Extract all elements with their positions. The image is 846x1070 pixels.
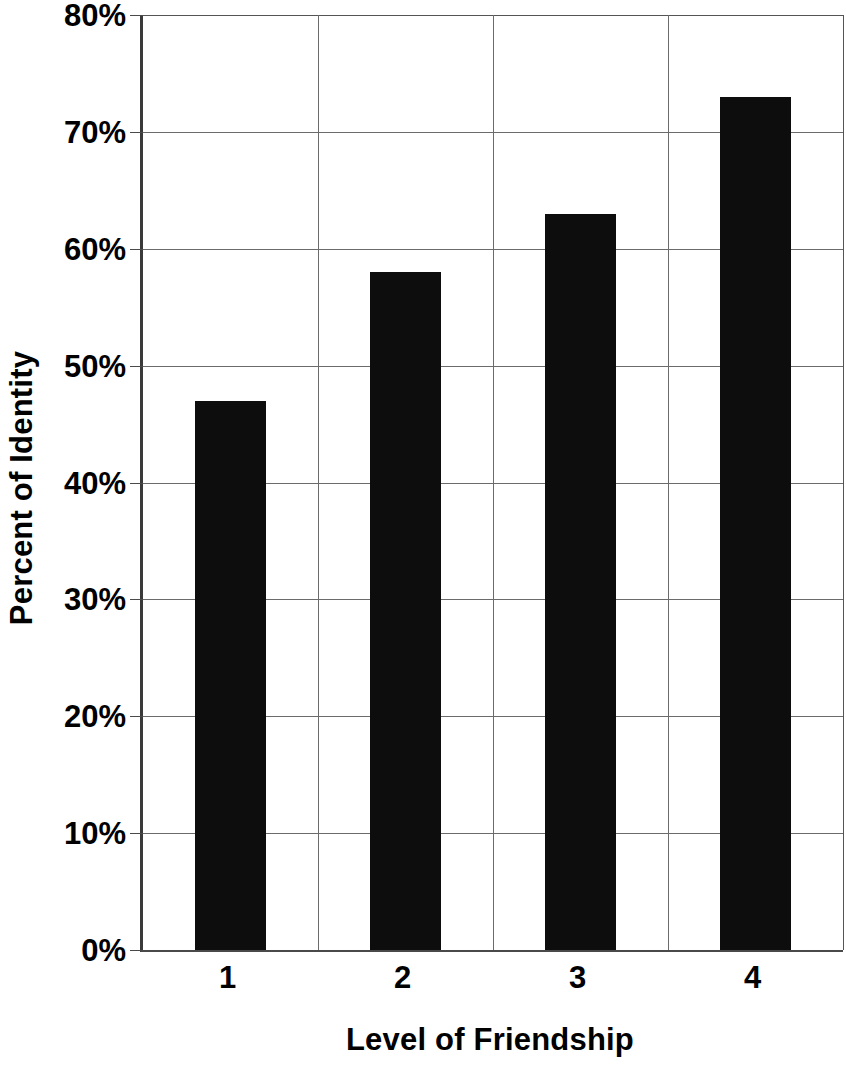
y-axis-tick-mark xyxy=(130,366,143,367)
y-axis-tick-label: 80% xyxy=(8,0,126,31)
x-axis-tick-labels: 1234 xyxy=(140,962,840,1008)
y-axis-tick-label: 10% xyxy=(8,818,126,849)
gridline-vertical xyxy=(493,15,494,950)
y-axis-tick-label: 0% xyxy=(8,935,126,966)
y-axis-tick-label: 60% xyxy=(8,233,126,264)
x-axis-tick-label: 4 xyxy=(708,962,798,993)
y-axis-tick-label: 70% xyxy=(8,116,126,147)
bar xyxy=(545,214,616,950)
x-axis-tick-label: 1 xyxy=(183,962,273,993)
y-axis-tick-mark xyxy=(130,249,143,250)
y-axis-tick-mark xyxy=(130,833,143,834)
y-axis-tick-mark xyxy=(130,132,143,133)
y-axis-tick-labels: 0%10%20%30%40%50%60%70%80% xyxy=(0,0,126,1070)
y-axis-tick-mark xyxy=(130,15,143,16)
bar xyxy=(195,401,266,950)
y-axis-tick-label: 30% xyxy=(8,584,126,615)
y-axis-tick-label: 40% xyxy=(8,467,126,498)
y-axis-tick-label: 20% xyxy=(8,701,126,732)
plot-area xyxy=(140,15,843,952)
y-axis-tick-mark xyxy=(130,483,143,484)
bar xyxy=(370,272,441,950)
bar-chart-figure: Percent of Identity 0%10%20%30%40%50%60%… xyxy=(0,0,846,1070)
y-axis-tick-label: 50% xyxy=(8,350,126,381)
y-axis-tick-mark xyxy=(130,950,143,951)
y-axis-tick-mark xyxy=(130,599,143,600)
x-axis-title: Level of Friendship xyxy=(140,1022,840,1058)
x-axis-tick-label: 3 xyxy=(533,962,623,993)
x-axis-tick-label: 2 xyxy=(358,962,448,993)
bar xyxy=(720,97,791,950)
gridline-vertical xyxy=(318,15,319,950)
gridline-vertical xyxy=(843,15,844,950)
gridline-vertical xyxy=(668,15,669,950)
y-axis-tick-mark xyxy=(130,716,143,717)
